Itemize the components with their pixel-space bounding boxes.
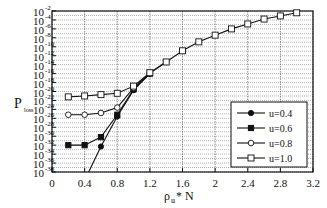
y-axis-title-sub: loss [24, 107, 34, 113]
y-tick-exponent: -10 [45, 40, 55, 48]
y-tick-exponent: -2 [45, 4, 51, 12]
y-tick-exponent: -16 [45, 67, 55, 75]
open-square-marker [228, 26, 234, 32]
y-tick-exponent: -30 [45, 129, 55, 137]
open-circle-marker [66, 112, 72, 118]
y-tick-exponent: -6 [45, 22, 51, 30]
y-tick-exponent: -34 [45, 147, 55, 155]
open-square-marker [294, 10, 300, 16]
x-tick-label: 0.8 [110, 177, 124, 189]
legend-label: u=1.0 [269, 153, 292, 164]
y-tick-exponent: -38 [45, 165, 55, 173]
x-axis-title: ρ u * N [164, 189, 194, 205]
x-tick-label: 2 [212, 177, 218, 189]
filled-circle-marker [248, 110, 253, 115]
filled-square-marker [115, 112, 120, 117]
filled-square-marker [82, 143, 87, 148]
open-square-marker [98, 92, 104, 98]
x-axis-title-sub: u [171, 196, 175, 205]
open-square-marker [180, 48, 186, 54]
x-tick-label: 3.2 [306, 177, 320, 189]
series-u-0_4 [89, 71, 153, 172]
x-tick-label: 0 [49, 177, 55, 189]
open-square-marker [114, 90, 120, 96]
open-square-marker [82, 93, 88, 99]
x-tick-label: 2.8 [274, 177, 288, 189]
open-square-marker [131, 83, 137, 89]
y-tick-exponent: -8 [45, 31, 51, 39]
x-axis-ticks: 00.40.81.21.622.42.83.2 [49, 168, 320, 189]
y-tick-exponent: -24 [45, 102, 55, 110]
open-square-marker [147, 70, 153, 76]
y-tick-exponent: -18 [45, 76, 55, 84]
legend-label: u=0.4 [269, 108, 292, 119]
legend: u=0.4u=0.6u=0.8u=1.0 [231, 102, 307, 167]
series-u-0_8 [66, 59, 169, 117]
open-square-marker [245, 21, 251, 27]
y-tick-exponent: -36 [45, 156, 55, 164]
y-axis-title: P loss [14, 96, 34, 113]
legend-label: u=0.8 [269, 138, 292, 149]
open-square-marker [65, 94, 71, 100]
open-circle-marker [82, 112, 88, 118]
y-tick-exponent: -26 [45, 111, 55, 119]
y-tick-exponent: -14 [45, 58, 55, 66]
loss-probability-chart: 10-210-410-610-810-1010-1210-1410-1610-1… [0, 0, 327, 208]
x-tick-label: 2.4 [241, 177, 255, 189]
open-square-marker [248, 155, 254, 161]
x-tick-label: 1.2 [143, 177, 157, 189]
y-axis-title-main: P [14, 96, 22, 111]
y-tick-exponent: -32 [45, 138, 55, 146]
x-tick-label: 1.6 [176, 177, 190, 189]
open-square-marker [212, 32, 218, 38]
open-square-marker [277, 13, 283, 19]
x-axis-title-main: ρ [164, 189, 170, 203]
open-square-marker [196, 39, 202, 45]
open-circle-marker [248, 140, 254, 146]
legend-label: u=0.6 [269, 123, 292, 134]
filled-square-marker [98, 135, 103, 140]
y-tick-label: 10 [33, 167, 45, 179]
filled-square-marker [248, 125, 253, 130]
y-tick-exponent: -28 [45, 120, 55, 128]
y-tick-exponent: -20 [45, 85, 55, 93]
x-axis-title-rest: * N [176, 189, 194, 203]
filled-circle-marker [98, 144, 103, 149]
y-tick-exponent: -22 [45, 93, 55, 101]
filled-square-marker [66, 143, 71, 148]
open-square-marker [163, 59, 169, 65]
y-tick-exponent: -4 [45, 13, 51, 21]
x-tick-label: 0.4 [78, 177, 92, 189]
open-square-marker [261, 16, 267, 22]
open-circle-marker [98, 110, 104, 116]
y-tick-exponent: -12 [45, 49, 55, 57]
open-circle-marker [114, 105, 120, 111]
